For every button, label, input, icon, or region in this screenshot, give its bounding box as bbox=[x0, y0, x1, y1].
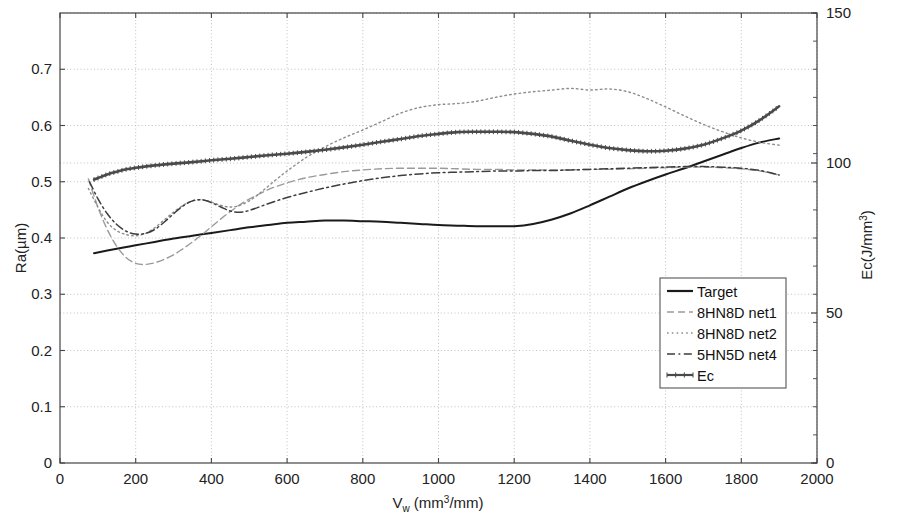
x-label-base: V bbox=[392, 494, 402, 511]
x-tick-label: 800 bbox=[350, 470, 375, 487]
y-tick-label-right: 150 bbox=[826, 4, 851, 21]
x-tick-label: 2000 bbox=[800, 470, 833, 487]
x-label-rest-a: (mm bbox=[410, 494, 444, 511]
x-tick-label: 400 bbox=[199, 470, 224, 487]
y-axis-label: Ra(µm) bbox=[12, 223, 29, 273]
x-tick-label: 1800 bbox=[725, 470, 758, 487]
x-tick-label: 1600 bbox=[649, 470, 682, 487]
chart-page: 020040060080010001200140016001800200000.… bbox=[0, 0, 898, 531]
legend-label: Target bbox=[697, 284, 737, 300]
y-tick-label: 0 bbox=[44, 454, 52, 471]
y-tick-label: 0.3 bbox=[31, 285, 52, 302]
y-tick-label: 0.4 bbox=[31, 229, 52, 246]
y-tick-label: 0.1 bbox=[31, 398, 52, 415]
x-tick-label: 600 bbox=[275, 470, 300, 487]
y-tick-label-right: 100 bbox=[826, 154, 851, 171]
x-tick-label: 1400 bbox=[573, 470, 606, 487]
x-tick-label: 200 bbox=[123, 470, 148, 487]
legend-label: 5HN5D net4 bbox=[697, 347, 777, 363]
x-tick-label: 0 bbox=[56, 470, 64, 487]
y-right-label-base: Ec(J/mm bbox=[858, 221, 875, 280]
y-tick-label: 0.7 bbox=[31, 60, 52, 77]
y-tick-label: 0.6 bbox=[31, 117, 52, 134]
figure-background bbox=[0, 0, 898, 531]
y-tick-label: 0.2 bbox=[31, 342, 52, 359]
y-right-label-close: ) bbox=[858, 210, 875, 215]
x-tick-label: 1200 bbox=[498, 470, 531, 487]
x-label-rest-b: /mm) bbox=[449, 494, 483, 511]
x-tick-label: 1000 bbox=[422, 470, 455, 487]
legend-label: 8HN8D net1 bbox=[697, 305, 777, 321]
legend-label: 8HN8D net2 bbox=[697, 326, 777, 342]
chart-legend[interactable]: Target8HN8D net18HN8D net25HN5D net4Ec bbox=[660, 278, 786, 388]
y-tick-label-right: 50 bbox=[826, 304, 843, 321]
y-tick-label: 0.5 bbox=[31, 173, 52, 190]
y-tick-label-right: 0 bbox=[826, 454, 834, 471]
legend-label: Ec bbox=[697, 368, 714, 384]
chart-figure: 020040060080010001200140016001800200000.… bbox=[0, 0, 898, 531]
